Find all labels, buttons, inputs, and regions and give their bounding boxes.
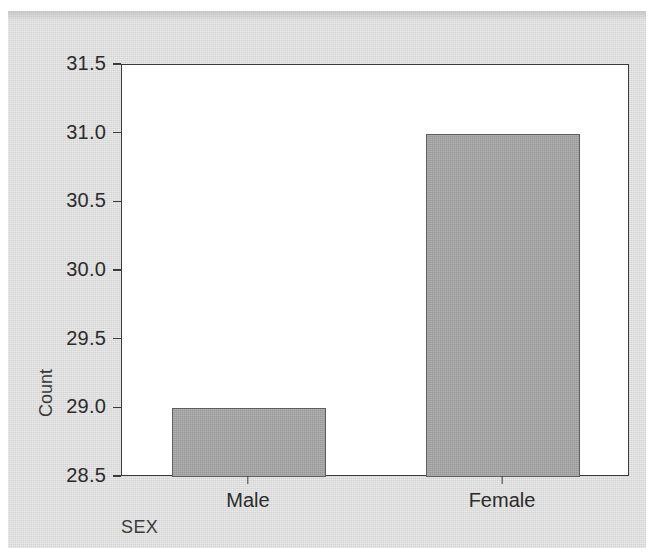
x-axis-tick: Female <box>469 476 536 510</box>
x-axis-tick-mark <box>501 476 503 484</box>
x-axis-tick-label: Female <box>469 490 536 510</box>
y-axis-tick-label: 29.5 <box>66 328 106 348</box>
y-axis-tick-label: 31.5 <box>66 53 106 73</box>
bar <box>426 134 580 477</box>
x-axis-title: SEX <box>121 518 158 536</box>
y-axis-tick-mark <box>113 338 121 340</box>
y-axis-tick-mark <box>113 63 121 65</box>
figure-panel: 31.531.030.530.029.529.028.5 Count MaleF… <box>8 11 646 548</box>
x-axis-tick-label: Male <box>226 490 269 510</box>
x-axis-tick: Male <box>226 476 269 510</box>
y-axis-tick-label: 29.0 <box>66 396 106 416</box>
y-axis-tick-mark <box>113 475 121 477</box>
y-axis-tick-label: 30.5 <box>66 190 106 210</box>
y-axis-tick-mark <box>113 407 121 409</box>
x-axis-tick-mark <box>247 476 249 484</box>
y-axis-tick-label: 30.0 <box>66 259 106 279</box>
y-axis-title: Count <box>33 307 59 417</box>
y-axis: 31.531.030.530.029.529.028.5 <box>8 64 121 476</box>
y-axis-tick-label: 31.0 <box>66 122 106 142</box>
bar <box>172 408 326 477</box>
plot-area <box>121 64 629 476</box>
y-axis-tick-mark <box>113 132 121 134</box>
chart-page: 31.531.030.530.029.529.028.5 Count MaleF… <box>0 0 651 558</box>
y-axis-tick-mark <box>113 269 121 271</box>
y-axis-tick-label: 28.5 <box>66 465 106 485</box>
x-axis: MaleFemale <box>121 476 629 516</box>
y-axis-tick-mark <box>113 201 121 203</box>
